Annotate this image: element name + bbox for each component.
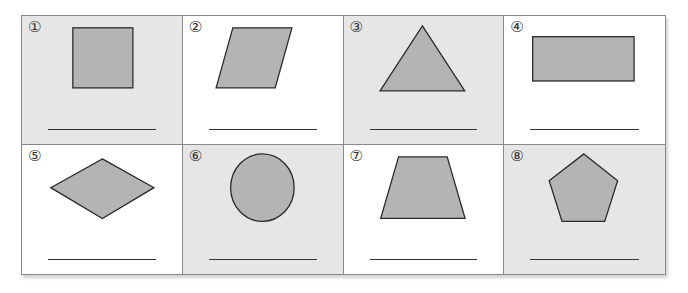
cell-circle: ⑥ xyxy=(183,145,344,274)
circle-shape-icon xyxy=(183,145,343,274)
cell-triangle: ③ xyxy=(344,16,505,145)
rectangle-shape-icon xyxy=(504,16,665,144)
cell-square: ① xyxy=(22,16,183,145)
answer-line[interactable] xyxy=(370,129,478,130)
answer-line[interactable] xyxy=(209,129,317,130)
answer-line[interactable] xyxy=(209,259,317,260)
pentagon-shape-icon xyxy=(504,145,665,274)
answer-line[interactable] xyxy=(370,259,478,260)
parallelogram-shape-icon xyxy=(183,16,343,144)
answer-line[interactable] xyxy=(48,259,156,260)
trapezoid-shape-icon xyxy=(344,145,504,274)
rhombus-shape-icon xyxy=(22,145,182,274)
triangle-shape-icon xyxy=(344,16,504,144)
answer-line[interactable] xyxy=(48,129,156,130)
cell-rectangle: ④ xyxy=(504,16,665,145)
answer-line[interactable] xyxy=(530,259,639,260)
cell-rhombus: ⑤ xyxy=(22,145,183,274)
cell-pentagon: ⑧ xyxy=(504,145,665,274)
cell-trapezoid: ⑦ xyxy=(344,145,505,274)
answer-line[interactable] xyxy=(530,129,639,130)
cell-parallelogram: ② xyxy=(183,16,344,145)
square-shape-icon xyxy=(22,16,182,144)
shapes-worksheet-grid: ① ② ③ ④ ⑤ ⑥ xyxy=(21,15,666,275)
